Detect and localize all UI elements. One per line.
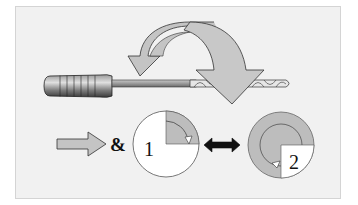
double-arrow: [204, 138, 240, 152]
diagram-canvas: & 1 2: [0, 0, 358, 205]
step-1-label: 1: [144, 138, 154, 160]
tool-shaft: [112, 80, 196, 87]
curved-arrow-front: [184, 22, 264, 104]
ampersand-label: &: [110, 134, 126, 155]
circle-step-2: 2: [248, 112, 314, 178]
step-2-label: 2: [289, 151, 299, 173]
push-arrow: [57, 132, 106, 156]
circle-step-1: 1: [133, 111, 199, 177]
tool-handle: [44, 75, 112, 98]
